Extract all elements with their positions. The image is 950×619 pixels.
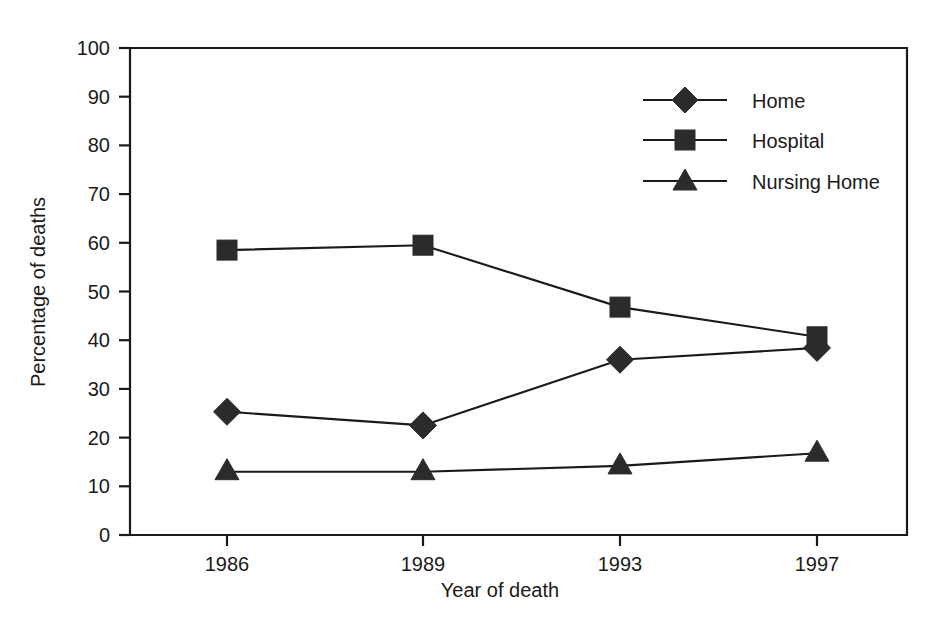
legend-label-home: Home xyxy=(752,90,805,112)
y-tick-label-100: 100 xyxy=(77,37,110,59)
y-tick-label-40: 40 xyxy=(88,329,110,351)
x-axis-tick-labels: 1986 1989 1993 1997 xyxy=(205,553,840,575)
y-axis-tick-labels: 0 10 20 30 40 50 60 70 80 90 100 xyxy=(77,37,110,546)
plot-border xyxy=(130,48,907,535)
y-tick-label-70: 70 xyxy=(88,183,110,205)
square-marker-icon xyxy=(675,130,695,150)
legend-item-hospital[interactable]: Hospital xyxy=(643,130,824,152)
chart-container: 0 10 20 30 40 50 60 70 80 90 100 1986 19… xyxy=(0,0,950,619)
y-tick-label-10: 10 xyxy=(88,475,110,497)
home-line xyxy=(227,348,817,426)
diamond-marker-icon xyxy=(672,87,698,113)
legend-label-hospital: Hospital xyxy=(752,130,824,152)
nursing-home-line xyxy=(227,453,817,472)
legend-item-nursing-home[interactable]: Nursing Home xyxy=(643,169,880,193)
nursing-home-point-1997 xyxy=(805,440,829,461)
y-tick-label-90: 90 xyxy=(88,86,110,108)
chart-legend: Home Hospital Nursing Home xyxy=(643,87,880,193)
y-axis-ticks xyxy=(119,48,130,535)
y-tick-label-60: 60 xyxy=(88,232,110,254)
series-nursing-home xyxy=(215,440,829,480)
x-tick-label-1997: 1997 xyxy=(795,553,840,575)
hospital-point-1993 xyxy=(610,297,630,317)
x-axis-ticks xyxy=(227,535,817,546)
triangle-marker-icon xyxy=(673,169,697,190)
y-tick-label-20: 20 xyxy=(88,427,110,449)
y-axis-title: Percentage of deaths xyxy=(27,197,49,387)
hospital-line xyxy=(227,245,817,337)
home-point-1986 xyxy=(214,398,241,425)
x-axis-title: Year of death xyxy=(441,579,559,601)
line-chart: 0 10 20 30 40 50 60 70 80 90 100 1986 19… xyxy=(0,0,950,619)
y-tick-label-50: 50 xyxy=(88,281,110,303)
x-tick-label-1986: 1986 xyxy=(205,553,250,575)
legend-item-home[interactable]: Home xyxy=(643,87,805,113)
y-tick-label-0: 0 xyxy=(99,524,110,546)
hospital-point-1989 xyxy=(413,235,433,255)
hospital-point-1986 xyxy=(217,240,237,260)
home-point-1993 xyxy=(607,346,634,373)
x-tick-label-1993: 1993 xyxy=(598,553,643,575)
y-tick-label-80: 80 xyxy=(88,134,110,156)
plot-frame xyxy=(130,48,907,535)
nursing-home-point-1989 xyxy=(411,459,435,480)
home-point-1989 xyxy=(410,412,437,439)
series-home xyxy=(214,334,831,439)
x-tick-label-1989: 1989 xyxy=(401,553,446,575)
series-hospital xyxy=(217,235,827,347)
legend-label-nursing-home: Nursing Home xyxy=(752,171,880,193)
y-tick-label-30: 30 xyxy=(88,378,110,400)
nursing-home-point-1986 xyxy=(215,459,239,480)
nursing-home-point-1993 xyxy=(608,453,632,474)
